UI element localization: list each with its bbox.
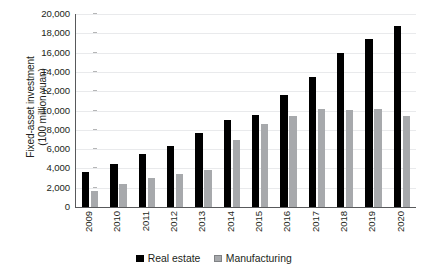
- legend-entry-real-estate[interactable]: Real estate: [136, 253, 200, 264]
- bar-real-estate-2019[interactable]: [365, 39, 373, 207]
- bar-manufacturing-2011[interactable]: [148, 178, 156, 207]
- x-axis-tick-label: 2017: [311, 211, 321, 232]
- x-axis-tick-label: 2012: [169, 211, 179, 232]
- x-axis-tick-label: 2013: [198, 211, 208, 232]
- bar-manufacturing-2018[interactable]: [346, 110, 354, 207]
- y-axis-tick-label: 0: [22, 202, 70, 212]
- legend-entry-manufacturing[interactable]: Manufacturing: [214, 253, 291, 264]
- x-axis-tick-labels: 2009201020112012201320142015201620172018…: [75, 210, 415, 250]
- x-axis-tick-cell: 2014: [217, 210, 245, 250]
- bar-real-estate-2018[interactable]: [337, 53, 345, 207]
- bar-real-estate-2020[interactable]: [394, 26, 402, 207]
- bar-group: [161, 14, 189, 207]
- y-axis-tick-label: 14,000: [22, 67, 70, 77]
- bar-manufacturing-2016[interactable]: [289, 116, 297, 207]
- x-axis-tick-cell: 2016: [273, 210, 301, 250]
- plot-area: [75, 14, 416, 208]
- bar-group: [133, 14, 161, 207]
- y-axis-tick-label: 12,000: [22, 86, 70, 96]
- bar-real-estate-2013[interactable]: [195, 133, 203, 207]
- bar-manufacturing-2009[interactable]: [91, 191, 99, 207]
- bar-group: [246, 14, 274, 207]
- y-axis-tick-label: 10,000: [22, 106, 70, 116]
- x-axis-tick-cell: 2010: [103, 210, 131, 250]
- x-axis-tick-cell: 2011: [132, 210, 160, 250]
- bar-manufacturing-2013[interactable]: [204, 170, 212, 207]
- bar-real-estate-2010[interactable]: [110, 164, 118, 207]
- bar-real-estate-2015[interactable]: [252, 115, 260, 207]
- x-axis-tick-label: 2019: [368, 211, 378, 232]
- bar-manufacturing-2020[interactable]: [403, 116, 411, 207]
- x-axis-tick-cell: 2012: [160, 210, 188, 250]
- x-axis-tick-label: 2015: [254, 211, 264, 232]
- legend-label-real-estate: Real estate: [148, 253, 201, 264]
- y-axis-tick-label: 16,000: [22, 48, 70, 58]
- x-axis-tick-label: 2020: [396, 211, 406, 232]
- bar-manufacturing-2010[interactable]: [119, 184, 127, 207]
- y-axis-tick-label: 20,000: [22, 9, 70, 19]
- x-axis-tick-cell: 2020: [387, 210, 415, 250]
- bar-chart-figure: Fixed-asset investment (100 million yuan…: [0, 0, 428, 277]
- bar-manufacturing-2012[interactable]: [176, 174, 184, 207]
- bar-real-estate-2016[interactable]: [280, 95, 288, 207]
- x-axis-tick-label: 2016: [283, 211, 293, 232]
- bar-group: [104, 14, 132, 207]
- bar-manufacturing-2019[interactable]: [374, 109, 382, 207]
- bar-real-estate-2014[interactable]: [224, 120, 232, 207]
- y-axis-tick-label: 18,000: [22, 29, 70, 39]
- y-axis-tick-labels: 20,00018,00016,00014,00012,00010,0008,00…: [22, 14, 70, 207]
- x-axis-tick-cell: 2017: [302, 210, 330, 250]
- bar-real-estate-2009[interactable]: [82, 172, 90, 207]
- y-axis-tick-label: 2,000: [22, 183, 70, 193]
- x-axis-tick-cell: 2019: [358, 210, 386, 250]
- legend-swatch-icon-manufacturing: [214, 255, 222, 263]
- bar-group: [359, 14, 387, 207]
- x-axis-tick-label: 2010: [113, 211, 123, 232]
- bar-group: [331, 14, 359, 207]
- bar-group: [303, 14, 331, 207]
- bar-real-estate-2017[interactable]: [309, 77, 317, 207]
- bar-group: [274, 14, 302, 207]
- legend-swatch-icon-real-estate: [136, 255, 144, 263]
- x-axis-tick-label: 2009: [84, 211, 94, 232]
- bar-group: [189, 14, 217, 207]
- bar-real-estate-2011[interactable]: [139, 154, 147, 207]
- bar-manufacturing-2014[interactable]: [233, 140, 241, 207]
- x-axis-tick-label: 2018: [339, 211, 349, 232]
- bar-series-layer: [76, 14, 416, 207]
- x-axis-tick-cell: 2013: [188, 210, 216, 250]
- bar-manufacturing-2017[interactable]: [318, 109, 326, 207]
- x-axis-tick-cell: 2015: [245, 210, 273, 250]
- bar-group: [76, 14, 104, 207]
- bar-manufacturing-2015[interactable]: [261, 124, 269, 207]
- chart-legend: Real estate Manufacturing: [0, 253, 428, 264]
- y-axis-tick-label: 4,000: [22, 164, 70, 174]
- x-axis-tick-cell: 2018: [330, 210, 358, 250]
- y-axis-tick-label: 8,000: [22, 125, 70, 135]
- bar-real-estate-2012[interactable]: [167, 146, 175, 207]
- bar-group: [388, 14, 416, 207]
- bar-group: [218, 14, 246, 207]
- x-axis-tick-label: 2011: [141, 211, 151, 231]
- x-axis-tick-label: 2014: [226, 211, 236, 232]
- legend-label-manufacturing: Manufacturing: [226, 253, 292, 264]
- x-axis-tick-cell: 2009: [75, 210, 103, 250]
- y-axis-tick-label: 6,000: [22, 144, 70, 154]
